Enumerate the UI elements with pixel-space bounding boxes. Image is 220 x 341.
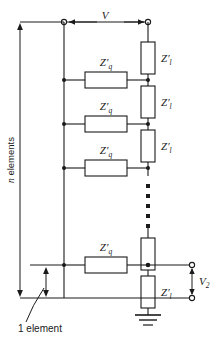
series-impedance-label-3: Z′q xyxy=(100,144,113,159)
output-terminal-upper xyxy=(189,262,194,267)
node-left-3 xyxy=(62,166,66,170)
series-impedance-label-1: Z′q xyxy=(100,56,113,71)
ellipsis-dot-3 xyxy=(146,204,150,208)
node-right-2 xyxy=(146,122,150,126)
series-impedance-box-3 xyxy=(85,160,127,176)
circuit-diagram-figure: V Z′q Z′q Z′q Z′q Z′l Z′l Z′l Z′l V2 n e… xyxy=(0,0,220,341)
v-arrow-left xyxy=(69,19,75,25)
one-element-arrow-bottom xyxy=(43,290,49,297)
v2-arrow-up xyxy=(189,268,194,274)
input-voltage-label: V xyxy=(102,9,110,21)
shunt-impedance-label-3: Z′l xyxy=(161,140,172,155)
node-left-2 xyxy=(62,122,66,126)
ellipsis-dot-1 xyxy=(146,184,150,188)
ellipsis-dot-4 xyxy=(146,214,150,218)
series-impedance-label-2: Z′q xyxy=(100,100,113,115)
shunt-impedance-box-1 xyxy=(141,42,155,74)
one-element-arrow-top xyxy=(43,267,49,274)
series-impedance-box-2 xyxy=(85,116,127,132)
shunt-impedance-label-2: Z′l xyxy=(161,96,172,111)
node-right-1 xyxy=(146,78,150,82)
shunt-impedance-box-3 xyxy=(141,130,155,162)
v-arrow-right xyxy=(138,19,144,25)
v2-arrow-down xyxy=(189,289,194,295)
node-left-1 xyxy=(62,78,66,82)
series-impedance-box-4 xyxy=(85,257,127,273)
output-voltage-label: V2 xyxy=(199,275,210,290)
shunt-impedance-box-5 xyxy=(141,276,155,308)
schematic-svg: V Z′q Z′q Z′q Z′q Z′l Z′l Z′l Z′l V2 n e… xyxy=(0,0,220,341)
series-impedance-box-1 xyxy=(85,72,127,88)
one-element-label: 1 element xyxy=(18,323,62,334)
shunt-impedance-box-2 xyxy=(141,86,155,118)
shunt-impedance-label-1: Z′l xyxy=(161,52,172,67)
node-right-3 xyxy=(146,166,150,170)
series-impedance-label-4: Z′q xyxy=(100,241,113,256)
one-element-leader-line xyxy=(26,288,44,322)
n-elements-arrow-bottom xyxy=(17,290,23,297)
ellipsis-dot-2 xyxy=(146,194,150,198)
output-terminal-lower xyxy=(189,295,194,300)
n-elements-label: n elements xyxy=(5,137,16,183)
n-elements-arrow-top xyxy=(17,23,23,30)
ellipsis-dot-5 xyxy=(146,224,150,228)
